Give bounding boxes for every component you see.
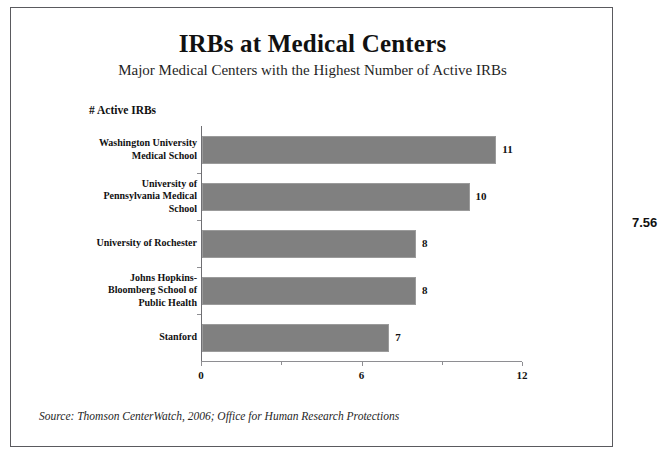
category-label: University ofPennsylvania MedicalSchool	[47, 178, 197, 216]
category-label: Johns Hopkins-Bloomberg School ofPublic …	[47, 272, 197, 310]
value-minor-tick	[281, 362, 282, 365]
bar	[202, 183, 470, 211]
bar-value-label: 7	[395, 331, 401, 343]
category-label-line: University of Rochester	[47, 237, 197, 250]
bar	[202, 324, 389, 352]
figure-frame: IRBs at Medical Centers Major Medical Ce…	[10, 7, 613, 447]
category-label-line: University of	[47, 178, 197, 191]
source-note: Source: Thomson CenterWatch, 2006; Offic…	[39, 410, 399, 422]
bar	[202, 136, 496, 164]
category-tick	[197, 220, 201, 221]
margin-annotation: 7.56	[632, 215, 657, 230]
bar	[202, 277, 416, 305]
value-tick	[522, 362, 523, 366]
value-tick-label: 0	[198, 369, 204, 381]
category-label: University of Rochester	[47, 237, 197, 250]
category-tick	[197, 173, 201, 174]
category-label: Stanford	[47, 331, 197, 344]
chart-subtitle: Major Medical Centers with the Highest N…	[11, 62, 614, 79]
value-axis-caption: # Active IRBs	[89, 104, 156, 116]
category-label-line: Washington University	[47, 137, 197, 150]
bar	[202, 230, 416, 258]
category-tick	[197, 314, 201, 315]
category-axis-labels: Washington UniversityMedical SchoolUnive…	[47, 126, 197, 361]
category-label-line: Stanford	[47, 331, 197, 344]
category-label-line: Bloomberg School of	[47, 284, 197, 297]
category-label-line: Public Health	[47, 297, 197, 310]
bar-value-label: 11	[502, 143, 512, 155]
value-tick-label: 6	[359, 369, 365, 381]
value-tick	[362, 362, 363, 366]
plot-area: 11108870612	[201, 126, 522, 361]
value-tick	[201, 362, 202, 366]
bar-value-label: 10	[476, 190, 487, 202]
category-label-line: Medical School	[47, 150, 197, 163]
category-label-line: Johns Hopkins-	[47, 272, 197, 285]
bar-value-label: 8	[422, 284, 428, 296]
category-label-line: Pennsylvania Medical	[47, 190, 197, 203]
category-label-line: School	[47, 203, 197, 216]
bar-value-label: 8	[422, 237, 428, 249]
category-tick	[197, 267, 201, 268]
value-minor-tick	[442, 362, 443, 365]
chart-title: IRBs at Medical Centers	[11, 30, 614, 58]
value-tick-label: 12	[517, 369, 528, 381]
category-label: Washington UniversityMedical School	[47, 137, 197, 162]
